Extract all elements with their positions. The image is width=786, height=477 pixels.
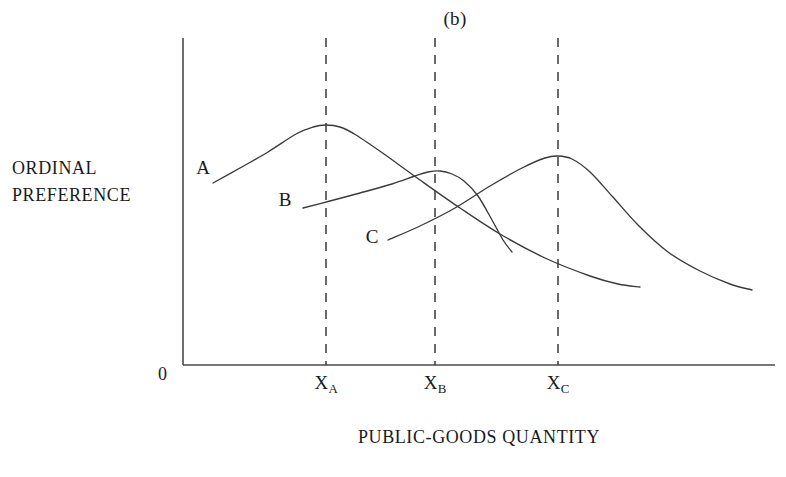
x-tick-label-xb: XB	[424, 372, 446, 394]
preference-curve-c	[388, 156, 752, 290]
x-tick-label-xc: XC	[547, 372, 569, 394]
x-tick-label-xa: XA	[314, 372, 337, 394]
curve-label-c: C	[366, 226, 379, 248]
preference-curve-b	[303, 171, 512, 252]
preference-curve-a	[213, 125, 640, 287]
x-tick-base-xc: X	[547, 372, 561, 393]
curve-label-a: A	[196, 157, 210, 179]
plot-area	[0, 0, 786, 477]
x-tick-base-xb: X	[424, 372, 438, 393]
x-tick-sub-xa: A	[328, 381, 337, 396]
x-tick-sub-xc: C	[561, 381, 570, 396]
curve-label-b: B	[279, 189, 292, 211]
x-tick-sub-xb: B	[438, 381, 447, 396]
figure-canvas: (b) ORDINAL PREFERENCE PUBLIC-GOODS QUAN…	[0, 0, 786, 477]
x-tick-base-xa: X	[314, 372, 328, 393]
